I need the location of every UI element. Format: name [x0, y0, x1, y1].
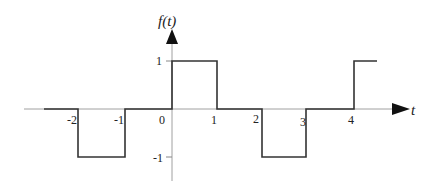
- xtick-neg1: -1: [114, 113, 124, 127]
- xtick-3: 3: [300, 115, 306, 129]
- y-axis-arrow-icon: [166, 29, 178, 44]
- x-axis-arrow-icon: [392, 103, 410, 115]
- x-axis-label: t: [411, 102, 416, 118]
- ytick-neg1: -1: [153, 151, 163, 165]
- ytick-1: 1: [156, 54, 162, 68]
- square-wave-chart: f(t) t -2 -1 0 1 2 3 4 1 -1: [0, 0, 434, 189]
- xtick-2: 2: [253, 112, 259, 126]
- xtick-neg2: -2: [67, 113, 77, 127]
- labels: f(t) t -2 -1 0 1 2 3 4 1 -1: [67, 13, 416, 165]
- xtick-4: 4: [348, 113, 354, 127]
- xtick-0: 0: [159, 113, 165, 127]
- y-axis-label: f(t): [158, 13, 176, 30]
- xtick-1: 1: [211, 113, 217, 127]
